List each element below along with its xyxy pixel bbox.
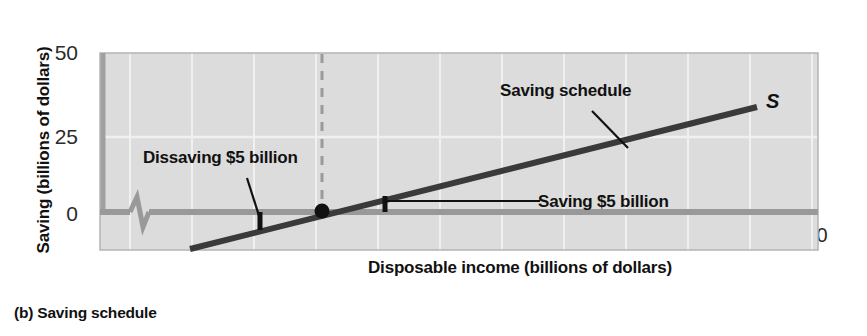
plot-canvas: [0, 0, 867, 336]
annotation-saving-schedule: Saving schedule: [500, 81, 631, 101]
annotation-dissaving: Dissaving $5 billion: [143, 148, 298, 168]
breakeven-point-marker: [315, 204, 330, 219]
saving-schedule-figure: Saving (billions of dollars) 50 25 0 390…: [0, 0, 867, 336]
series-label-s: S: [766, 90, 779, 113]
annotation-saving: Saving $5 billion: [538, 192, 669, 212]
x-axis-title: Disposable income (billions of dollars): [240, 258, 800, 278]
figure-caption: (b) Saving schedule: [14, 304, 157, 322]
